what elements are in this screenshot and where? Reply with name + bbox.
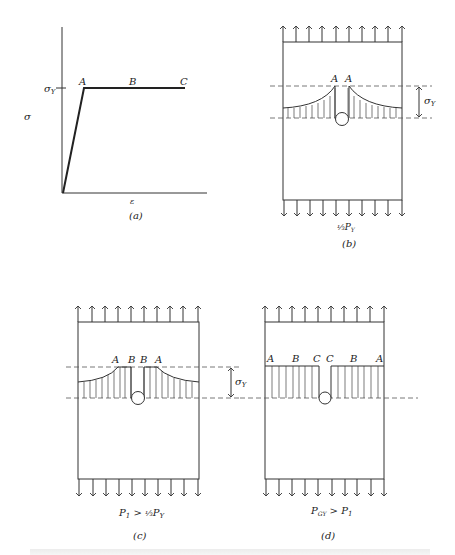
point-a-right-label: A [154,354,162,365]
point-c-left-label: C [313,353,321,364]
hole [319,392,331,404]
load-label: PGY > P1 [310,505,352,518]
yield-stress-label: σY [44,83,57,96]
hole [336,113,349,126]
panel-a-caption: (a) [129,210,143,221]
panel-d-caption: (d) [321,530,335,541]
stress-curve-left [283,86,335,118]
point-a-left-label: A [111,354,119,365]
sigma-label: σ [24,111,32,122]
tension-arrows-bottom [266,479,384,496]
panel-c-plate-partial-yield: A B B A σY P1 > ⅓PY (c) [66,306,248,541]
epsilon-label: ε [130,197,134,206]
point-b-left-label: B [127,354,135,365]
hole [132,392,145,405]
stress-plateau-left [265,366,319,398]
load-label: ⅓PY [337,222,356,233]
tension-arrows-top [283,26,402,42]
tension-arrows-bottom [79,479,198,496]
point-b-left-label: B [291,353,299,364]
load-label: P1 > ⅓PY [118,507,165,520]
cropped-figure-caption [30,549,430,555]
point-a-left-label: A [330,73,338,84]
panel-a-stress-strain-diagram: σY σ A B C ε (a) [24,27,207,221]
stress-curve-left [78,367,131,398]
stress-curve-right [349,86,402,118]
panel-b-caption: (b) [342,238,356,249]
point-b-right-label: B [349,353,357,364]
tension-arrows-top [78,306,198,322]
point-c-label: C [180,76,188,87]
panel-b-plate-elastic: A A σY ⅓PY (b) [270,26,437,249]
figure-canvas: σY σ A B C ε (a) [0,0,455,555]
dimension-label: σY [424,95,437,108]
tension-arrows-top [265,306,384,322]
panel-d-plate-fully-yielded: A B C C B A PGY > P1 (d) [240,306,418,541]
stress-curve-right [144,367,199,398]
point-b-label: B [128,76,136,87]
dimension-label: σY [235,376,248,389]
panel-c-caption: (c) [133,530,147,541]
point-a-left-label: A [266,353,274,364]
stress-strain-curve [63,88,185,193]
point-a-right-label: A [375,353,383,364]
point-c-right-label: C [326,353,334,364]
tension-arrows-bottom [284,200,402,216]
point-a-label: A [78,76,86,87]
point-a-right-label: A [344,73,352,84]
point-b-right-label: B [139,354,147,365]
stress-plateau-right [331,366,384,398]
